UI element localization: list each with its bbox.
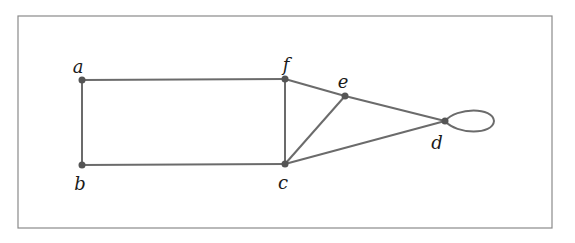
node-label-b: b (74, 173, 86, 194)
node-c (282, 161, 289, 168)
node-b (79, 162, 86, 169)
edge-e-d (345, 96, 445, 121)
node-d (442, 118, 449, 125)
edge-a-f (82, 79, 285, 80)
edge-loop-d (445, 111, 494, 132)
nodes-group (79, 76, 449, 169)
node-label-a: a (73, 56, 84, 77)
node-label-f: f (281, 54, 293, 75)
node-label-c: c (278, 172, 288, 193)
node-a (79, 77, 86, 84)
node-e (342, 93, 349, 100)
edge-b-c (82, 164, 285, 165)
edge-c-e (285, 96, 345, 164)
graph-diagram: abfced (0, 0, 575, 243)
node-label-d: d (431, 132, 443, 153)
labels-group: abfced (73, 54, 443, 194)
edge-f-e (285, 79, 345, 96)
edge-c-d (285, 121, 445, 164)
node-f (282, 76, 289, 83)
node-label-e: e (338, 71, 349, 92)
